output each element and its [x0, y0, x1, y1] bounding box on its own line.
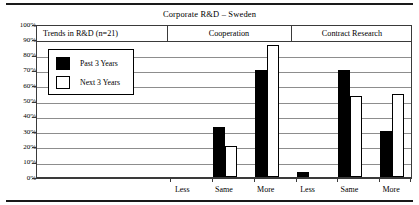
x-axis-tick-mark — [296, 178, 297, 182]
legend-item-past: Past 3 Years — [56, 55, 118, 72]
x-axis-tick-label: Same — [329, 185, 369, 194]
panel-header-3: Contract Research — [291, 26, 412, 41]
panel-header-2: Cooperation — [167, 26, 291, 41]
panel-header-1: Trends in R&D (n=21) — [37, 26, 167, 41]
bottom-rule — [6, 200, 413, 202]
legend-swatch-past-icon — [56, 57, 70, 70]
legend-label-next: Next 3 Years — [80, 78, 120, 87]
figure-container: Corporate R&D – Sweden 100%90%80%70%60%5… — [0, 0, 419, 205]
x-axis-tick-label: Same — [204, 185, 244, 194]
panel-header-band: Trends in R&D (n=21)CooperationContract … — [37, 26, 411, 41]
legend-label-past: Past 3 Years — [80, 59, 118, 68]
plot-area: Trends in R&D (n=21)CooperationContract … — [36, 25, 412, 178]
x-axis-tick-mark — [254, 178, 255, 182]
bar-past-3 — [255, 70, 267, 177]
panel-header-underline — [37, 41, 411, 42]
y-axis: 100%90%80%70%60%50%40%30%20%10%0% — [0, 25, 36, 178]
bar-past-4 — [297, 172, 309, 177]
x-axis-tick-mark — [379, 178, 380, 182]
legend: Past 3 Years Next 3 Years — [48, 49, 134, 95]
bar-next-3 — [267, 45, 279, 177]
bar-past-6 — [380, 131, 392, 177]
x-axis-line — [36, 178, 412, 179]
chart-title: Corporate R&D – Sweden — [0, 9, 419, 19]
x-axis-tick-mark — [170, 178, 171, 182]
bar-past-2 — [213, 127, 225, 177]
x-axis-tick-mark — [410, 178, 411, 182]
x-axis-tick-label: More — [246, 185, 286, 194]
x-axis-tick-mark — [212, 178, 213, 182]
legend-swatch-next-icon — [56, 76, 70, 89]
x-axis-tick-mark — [337, 178, 338, 182]
bar-next-5 — [350, 96, 362, 177]
bar-next-2 — [225, 146, 237, 177]
bar-past-5 — [338, 70, 350, 177]
x-axis-tick-label: Less — [288, 185, 328, 194]
panel-divider — [167, 26, 168, 41]
legend-item-next: Next 3 Years — [56, 74, 120, 91]
top-rule — [6, 3, 413, 5]
x-axis-tick-label: More — [371, 185, 411, 194]
panel-divider — [291, 26, 292, 41]
x-axis-tick-label: Less — [162, 185, 202, 194]
bar-next-6 — [392, 94, 404, 177]
